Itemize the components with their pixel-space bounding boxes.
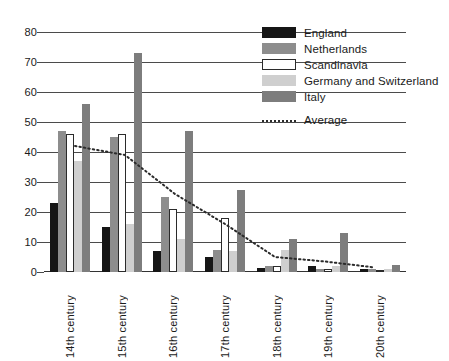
x-tick-label: 19th century — [322, 276, 334, 358]
bar — [126, 224, 134, 272]
y-tick-mark — [37, 92, 44, 93]
x-label-slot: 17th century — [205, 276, 245, 358]
x-label-slot: 14th century — [50, 276, 90, 358]
bar — [340, 233, 348, 272]
y-tick-mark — [37, 32, 44, 33]
x-label-slot: 18th century — [257, 276, 297, 358]
bar — [316, 269, 324, 272]
legend-item[interactable]: Average — [262, 113, 439, 126]
bar — [74, 161, 82, 272]
bar — [58, 131, 66, 272]
bar — [118, 134, 126, 272]
legend-swatch-italy-icon — [262, 91, 296, 102]
y-tick-label: 20 — [25, 206, 37, 218]
legend-item[interactable]: Netherlands — [262, 42, 439, 55]
y-tick-mark — [37, 272, 44, 273]
bar-group — [205, 32, 245, 272]
x-tick-label: 15th century — [116, 276, 128, 358]
legend-swatch-scandinavia-icon — [262, 59, 296, 70]
x-tick-label: 14th century — [64, 276, 76, 358]
bar — [384, 269, 392, 272]
legend-swatch-average-icon — [262, 114, 296, 125]
legend-label: Germany and Switzerland — [304, 75, 439, 87]
legend-item[interactable]: England — [262, 26, 439, 39]
y-tick-label: 30 — [25, 176, 37, 188]
bar — [161, 197, 169, 272]
x-label-slot: 20th century — [360, 276, 400, 358]
bar — [169, 209, 177, 272]
bar — [392, 265, 400, 273]
x-tick-label: 17th century — [219, 276, 231, 358]
legend-item[interactable]: Scandinavia — [262, 58, 439, 71]
y-tick-label: 0 — [31, 266, 37, 278]
y-tick-mark — [37, 62, 44, 63]
legend-label: Netherlands — [304, 43, 367, 55]
y-tick-label: 60 — [25, 86, 37, 98]
bar — [205, 257, 213, 272]
bar-group — [50, 32, 90, 272]
legend-label: Scandinavia — [304, 59, 368, 71]
bar — [66, 134, 74, 272]
x-label-slot: 15th century — [102, 276, 142, 358]
x-label-slot: 19th century — [308, 276, 348, 358]
bar — [289, 239, 297, 272]
legend-label: Average — [304, 114, 347, 126]
x-axis-labels: 14th century15th century16th century17th… — [44, 276, 406, 358]
bar — [102, 227, 110, 272]
bar — [332, 266, 340, 272]
legend-item[interactable]: Germany and Switzerland — [262, 74, 439, 87]
x-tick-label: 20th century — [374, 276, 386, 358]
legend-swatch-netherlands-icon — [262, 43, 296, 54]
y-tick-label: 10 — [25, 236, 37, 248]
bar — [368, 269, 376, 272]
y-tick-mark — [37, 122, 44, 123]
legend-swatch-england-icon — [262, 27, 296, 38]
legend-label: Italy — [304, 91, 326, 103]
y-tick-mark — [37, 242, 44, 243]
bar — [221, 218, 229, 272]
bar — [153, 251, 161, 272]
bar — [237, 190, 245, 273]
bar — [281, 250, 289, 273]
y-tick-label: 40 — [25, 146, 37, 158]
bar-group — [102, 32, 142, 272]
bar — [82, 104, 90, 272]
bar — [229, 251, 237, 272]
legend-swatch-germany-icon — [262, 75, 296, 86]
bar — [273, 266, 281, 272]
bar-group — [153, 32, 193, 272]
y-tick-mark — [37, 182, 44, 183]
bar — [324, 269, 332, 272]
bar — [308, 266, 316, 272]
bar-chart: 01020304050607080 14th century15th centu… — [0, 0, 449, 361]
bar — [50, 203, 58, 272]
y-tick-label: 80 — [25, 26, 37, 38]
y-tick-mark — [37, 212, 44, 213]
bar — [177, 239, 185, 272]
bar — [360, 269, 368, 272]
legend-item[interactable]: Italy — [262, 90, 439, 103]
y-tick-label: 70 — [25, 56, 37, 68]
y-tick-label: 50 — [25, 116, 37, 128]
bar — [376, 270, 384, 272]
bar — [185, 131, 193, 272]
bar — [110, 137, 118, 272]
legend-label: England — [304, 27, 347, 39]
x-tick-label: 18th century — [271, 276, 283, 358]
bar — [213, 250, 221, 273]
bar — [265, 266, 273, 272]
bar — [134, 53, 142, 272]
chart-legend: EnglandNetherlandsScandinaviaGermany and… — [262, 26, 439, 126]
y-tick-mark — [37, 152, 44, 153]
x-label-slot: 16th century — [153, 276, 193, 358]
bar — [257, 268, 265, 273]
x-tick-label: 16th century — [167, 276, 179, 358]
